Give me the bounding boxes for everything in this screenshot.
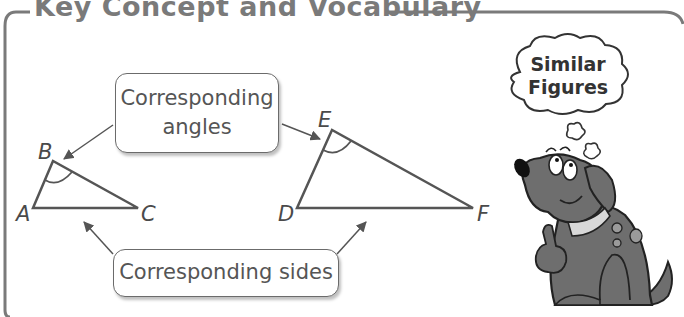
thought-line2: Figures [508,76,628,99]
corresponding-angles-line1: Corresponding [116,84,278,113]
diagram-canvas [0,0,684,317]
vertex-label-f: F [477,202,489,226]
corresponding-angles-line2: angles [116,113,278,142]
key-concept-panel: Key Concept and Vocabulary Corresponding… [0,0,684,317]
thought-line1: Similar [508,53,628,76]
vertex-label-d: D [278,202,294,226]
angle-b-arc [45,172,72,183]
vertex-label-e: E [318,108,331,132]
thought-text: Similar Figures [508,53,628,99]
triangle-abc [33,161,138,208]
dog-mascot [511,147,672,305]
corresponding-angles-label: Corresponding angles [115,73,279,153]
corresponding-sides-label: Corresponding sides [113,249,339,297]
vertex-label-c: C [141,202,156,226]
vertex-label-b: B [38,140,52,164]
triangle-def [297,130,473,208]
vertex-label-a: A [16,202,30,226]
section-title: Key Concept and Vocabulary [34,0,482,22]
